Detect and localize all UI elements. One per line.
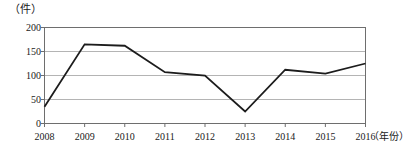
x-tick-label: 2012 bbox=[195, 131, 215, 143]
y-tick-label: 0 bbox=[4, 119, 41, 129]
y-tick-label: 100 bbox=[4, 71, 41, 81]
x-tick-label: 2015 bbox=[315, 131, 335, 143]
x-tick-label: 2014 bbox=[275, 131, 295, 143]
y-tick-label: 50 bbox=[4, 95, 41, 105]
x-tick-label: 2011 bbox=[155, 131, 175, 143]
x-tick-label: 2010 bbox=[115, 131, 135, 143]
data-line-series-1 bbox=[45, 44, 366, 111]
x-axis-ticks bbox=[45, 124, 366, 128]
x-axis-title: （年份） bbox=[369, 131, 409, 143]
x-tick-label: 2013 bbox=[235, 131, 255, 143]
x-tick-label: 2008 bbox=[35, 131, 55, 143]
y-tick-label: 200 bbox=[4, 23, 41, 33]
y-axis-ticks bbox=[41, 28, 45, 124]
y-tick-label: 150 bbox=[4, 47, 41, 57]
x-tick-label: 2009 bbox=[75, 131, 95, 143]
line-chart: （件） 050100150200 20082009201020112012201… bbox=[0, 0, 413, 157]
